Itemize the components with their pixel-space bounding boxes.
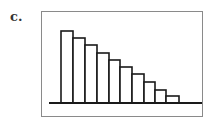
histogram-bar xyxy=(144,82,155,103)
histogram-bar xyxy=(85,45,97,103)
histogram-bar xyxy=(73,38,85,103)
histogram-bar xyxy=(166,96,179,103)
histogram-bar xyxy=(109,60,120,103)
histogram-bar xyxy=(97,53,109,103)
histogram-bar xyxy=(155,90,166,103)
histogram-bar xyxy=(132,74,144,103)
histogram-bar xyxy=(120,67,132,103)
histogram xyxy=(0,0,215,123)
histogram-bar xyxy=(61,31,73,103)
